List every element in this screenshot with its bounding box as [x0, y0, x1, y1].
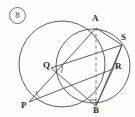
- point-label-Q: Q: [43, 61, 50, 70]
- point-label-S: S: [121, 33, 126, 42]
- segment-Q-S: [51, 45, 122, 68]
- segment-Q-B: [51, 68, 96, 106]
- point-label-R: R: [115, 62, 122, 71]
- point-label-P: P: [21, 101, 27, 110]
- segment-P-A: [29, 28, 96, 102]
- point-label-A: A: [92, 14, 99, 23]
- point-label-B: B: [93, 106, 99, 115]
- geometry-figure: 8 A S R Q P B: [0, 0, 135, 117]
- segment-A-S: [96, 28, 122, 45]
